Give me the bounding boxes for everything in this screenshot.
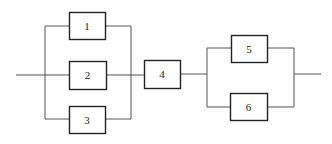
block-label: 4	[159, 68, 165, 80]
block-5: 5	[232, 36, 268, 63]
reliability-block-diagram: 123456	[0, 0, 332, 144]
block-2: 2	[70, 62, 107, 90]
block-1: 1	[70, 13, 106, 40]
block-label: 5	[246, 43, 252, 55]
block-4: 4	[145, 61, 181, 89]
block-label: 1	[84, 20, 90, 32]
block-3: 3	[70, 107, 106, 134]
blocks: 123456	[70, 13, 268, 134]
block-label: 3	[84, 114, 90, 126]
block-label: 2	[85, 69, 91, 81]
block-6: 6	[231, 94, 268, 121]
block-label: 6	[246, 101, 252, 113]
